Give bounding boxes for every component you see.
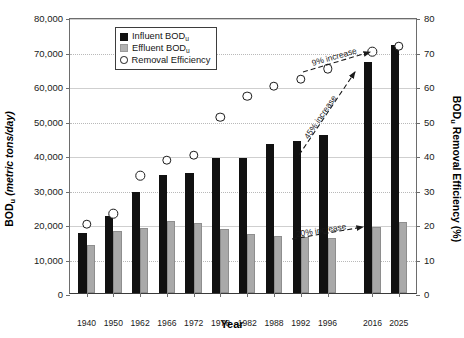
y2-tick-label: 70: [424, 47, 435, 58]
y-tick-label: 20,000: [34, 220, 63, 231]
legend-label-subscript: u: [186, 47, 190, 54]
y-tick-label: 30,000: [34, 185, 63, 196]
y-axis-title-sub: u: [8, 199, 17, 204]
bar-effluent: [167, 221, 175, 293]
bar-influent: [132, 192, 140, 293]
x-tick-mark: [372, 293, 373, 297]
x-tick-mark: [113, 293, 114, 297]
y2-tick-mark: [416, 19, 420, 20]
x-tick-label: 1978: [211, 318, 230, 328]
bar-influent: [78, 233, 86, 293]
y-axis-title-unit: (metric tons/day): [3, 111, 15, 199]
bar-influent: [239, 158, 247, 293]
point-removal-efficiency: [296, 74, 305, 83]
y-tick-mark: [66, 88, 70, 89]
bar-influent: [105, 216, 113, 293]
x-tick-label: 1996: [318, 318, 337, 328]
x-tick-label: 1950: [104, 318, 123, 328]
y2-axis-title: BODu Removal Efficiency (%): [449, 69, 463, 269]
y2-tick-label: 10: [424, 254, 435, 265]
legend-label: Removal Efficiency: [132, 55, 211, 65]
y-axis-title: BODu (metric tons/day): [3, 69, 17, 269]
x-tick-mark: [328, 293, 329, 297]
bar-effluent: [372, 227, 380, 293]
y-tick-label: 50,000: [34, 116, 63, 127]
y-tick-mark: [66, 226, 70, 227]
x-tick-mark: [399, 293, 400, 297]
open-circle-icon: [120, 56, 128, 64]
bar-effluent: [301, 237, 309, 293]
y2-tick-mark: [416, 88, 420, 89]
y2-axis-title-main: BOD: [451, 96, 463, 119]
bar-influent: [159, 175, 167, 293]
y2-tick-mark: [416, 123, 420, 124]
y-tick-mark: [66, 295, 70, 296]
chart-figure: BODu (metric tons/day) BODu Removal Effi…: [0, 0, 464, 338]
bar-influent: [212, 158, 220, 293]
y2-tick-mark: [416, 192, 420, 193]
x-tick-label: 1982: [238, 318, 257, 328]
y2-tick-mark: [416, 226, 420, 227]
y2-tick-mark: [416, 54, 420, 55]
y-tick-label: 80,000: [34, 13, 63, 24]
x-tick-label: 1988: [264, 318, 283, 328]
bar-effluent: [220, 229, 228, 293]
y-tick-mark: [66, 261, 70, 262]
y2-tick-label: 30: [424, 185, 435, 196]
y-tick-label: 70,000: [34, 47, 63, 58]
y2-tick-label: 0: [424, 289, 429, 300]
bar-effluent: [87, 245, 95, 293]
x-tick-label: 1992: [291, 318, 310, 328]
square-swatch-icon: [120, 33, 128, 41]
y2-tick-label: 40: [424, 151, 435, 162]
y-tick-label: 60,000: [34, 82, 63, 93]
point-removal-efficiency: [323, 64, 332, 73]
point-removal-efficiency: [189, 150, 198, 159]
y-tick-mark: [66, 157, 70, 158]
x-tick-mark: [274, 293, 275, 297]
legend-label: Effluent BODu: [132, 43, 190, 54]
x-tick-mark: [247, 293, 248, 297]
point-removal-efficiency: [216, 112, 225, 121]
bar-effluent: [247, 234, 255, 293]
chart-legend: Influent BODuEffluent BODuRemoval Effici…: [115, 27, 217, 70]
point-removal-efficiency: [135, 171, 144, 180]
bar-effluent: [399, 222, 407, 293]
x-tick-label: 1966: [157, 318, 176, 328]
y-tick-label: 0: [58, 289, 63, 300]
x-tick-label: 2025: [389, 318, 408, 328]
y-tick-label: 40,000: [34, 151, 63, 162]
y-tick-mark: [66, 19, 70, 20]
square-swatch-icon: [120, 44, 128, 52]
legend-label: Influent BODu: [132, 31, 189, 42]
y2-tick-label: 50: [424, 116, 435, 127]
bar-influent: [391, 45, 399, 293]
x-tick-mark: [87, 293, 88, 297]
x-tick-mark: [167, 293, 168, 297]
legend-item: Influent BODu: [120, 31, 210, 43]
legend-item: Removal Efficiency: [120, 54, 210, 66]
x-tick-mark: [140, 293, 141, 297]
y2-tick-mark: [416, 157, 420, 158]
gridline: [70, 19, 416, 20]
x-tick-label: 2016: [363, 318, 382, 328]
bar-influent: [185, 173, 193, 293]
bar-effluent: [113, 231, 121, 293]
x-tick-mark: [194, 293, 195, 297]
y2-tick-label: 80: [424, 13, 435, 24]
point-removal-efficiency: [243, 92, 252, 101]
y-tick-mark: [66, 192, 70, 193]
y-tick-mark: [66, 123, 70, 124]
bar-influent: [293, 141, 301, 293]
point-removal-efficiency: [269, 81, 278, 90]
x-tick-label: 1940: [77, 318, 96, 328]
point-removal-efficiency: [368, 47, 377, 56]
bar-influent: [319, 135, 327, 293]
y2-tick-label: 60: [424, 82, 435, 93]
legend-item: Effluent BODu: [120, 43, 210, 55]
bar-effluent: [328, 238, 336, 293]
bar-influent: [364, 62, 372, 293]
legend-label-subscript: u: [185, 35, 189, 42]
y-tick-mark: [66, 54, 70, 55]
y2-axis-title-rest: Removal Efficiency (%): [451, 124, 463, 242]
